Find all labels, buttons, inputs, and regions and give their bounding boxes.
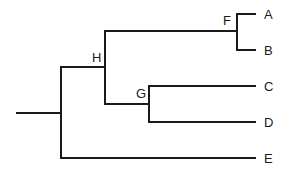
leaf-label-a: A (264, 7, 273, 22)
leaf-label-c: C (264, 79, 273, 94)
phylogenetic-tree: A B C D E F G H (0, 0, 289, 173)
node-label-g: G (136, 86, 146, 101)
leaf-label-b: B (264, 43, 273, 58)
leaf-label-d: D (264, 115, 273, 130)
node-label-h: H (92, 50, 101, 65)
node-label-f: F (223, 13, 231, 28)
leaf-label-e: E (264, 151, 273, 166)
